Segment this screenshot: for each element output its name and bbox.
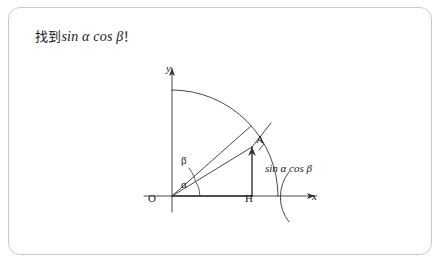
geometry-figure: y x O H A α β sin α cos β bbox=[119, 60, 339, 240]
title-expression: sin α cos β bbox=[61, 29, 123, 44]
geometry-svg bbox=[119, 60, 339, 240]
angle-beta-label: β bbox=[181, 154, 187, 166]
segment-expression-label: sin α cos β bbox=[265, 162, 312, 174]
page-title: 找到sin α cos β！ bbox=[35, 26, 137, 45]
y-axis-label: y bbox=[166, 62, 171, 74]
figure-card: 找到sin α cos β！ bbox=[8, 7, 432, 255]
angle-alpha-label: α bbox=[181, 178, 187, 190]
x-axis-label: x bbox=[312, 190, 317, 202]
point-a-label: A bbox=[256, 133, 264, 145]
foot-point-label: H bbox=[245, 192, 253, 204]
alpha-arc bbox=[195, 180, 200, 196]
title-suffix: ！ bbox=[123, 29, 136, 44]
title-prefix: 找到 bbox=[35, 29, 61, 44]
outer-arc bbox=[280, 172, 289, 222]
origin-label: O bbox=[148, 192, 156, 204]
beta-arc bbox=[189, 168, 195, 179]
